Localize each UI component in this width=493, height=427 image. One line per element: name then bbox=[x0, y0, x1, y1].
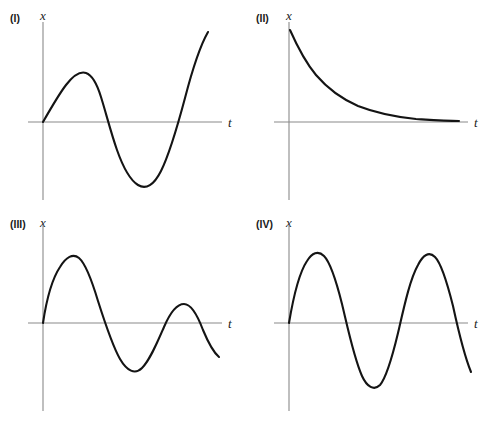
oscillation-graphs-figure: (I) x t (II) x t (III) x t (IV) bbox=[0, 0, 493, 427]
x-axis-label-3: t bbox=[228, 316, 232, 331]
curve-damped-oscillation bbox=[43, 256, 219, 372]
x-axis-label-4: t bbox=[474, 316, 478, 331]
x-axis-label-1: t bbox=[228, 115, 232, 130]
panel-label-1: (I) bbox=[10, 12, 20, 24]
y-axis-label-2: x bbox=[285, 8, 292, 23]
curve-growing-oscillation bbox=[43, 32, 208, 187]
graph-panel-3: (III) x t bbox=[0, 211, 247, 424]
graph-panel-2: (II) x t bbox=[246, 0, 493, 213]
panel-label-2: (II) bbox=[256, 12, 269, 24]
y-axis-label-1: x bbox=[39, 8, 46, 23]
graph-panel-4: (IV) x t bbox=[246, 211, 493, 424]
panel-label-4: (IV) bbox=[256, 218, 273, 230]
panel-label-3: (III) bbox=[10, 218, 26, 230]
x-axis-label-2: t bbox=[474, 115, 478, 130]
curve-exponential-decay bbox=[290, 30, 459, 121]
curve-undamped-sine bbox=[289, 253, 471, 388]
graph-panel-1: (I) x t bbox=[0, 0, 247, 213]
